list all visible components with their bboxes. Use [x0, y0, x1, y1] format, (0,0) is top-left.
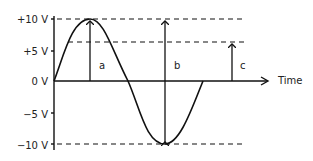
label-minus-5v: −5 V: [23, 109, 48, 120]
arrow-b-label: b: [174, 60, 180, 71]
sine-wave-diagram: +10 V +5 V 0 V −5 V −10 V Time a b c: [0, 0, 313, 161]
label-plus-5v: +5 V: [23, 46, 48, 57]
arrow-a-label: a: [99, 60, 105, 71]
arrow-c-label: c: [240, 60, 246, 71]
label-plus-10v: +10 V: [17, 14, 48, 25]
time-label: Time: [277, 75, 302, 86]
label-0v: 0 V: [32, 76, 49, 87]
label-minus-10v: −10 V: [17, 140, 48, 151]
